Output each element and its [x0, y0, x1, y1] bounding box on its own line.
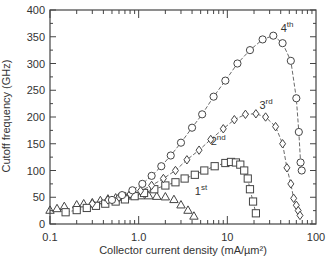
diamond-marker	[284, 164, 290, 172]
y-tick-label: 100	[27, 165, 45, 177]
circle-marker	[139, 180, 146, 187]
diamond-marker	[280, 140, 286, 148]
circle-marker	[158, 163, 165, 170]
diamond-marker	[273, 122, 279, 130]
x-tick-label: 1.0	[131, 231, 146, 243]
circle-marker	[259, 36, 266, 43]
circle-marker	[129, 187, 136, 194]
circle-marker	[295, 128, 302, 135]
square-marker	[191, 171, 198, 178]
y-tick-label: 250	[27, 84, 45, 96]
triangle-marker	[170, 195, 178, 202]
square-marker	[162, 182, 169, 189]
circle-marker	[188, 124, 195, 131]
y-tick-label: 150	[27, 138, 45, 150]
circle-marker	[270, 32, 277, 39]
cutoff-frequency-chart: 1st2nd3rd4th 0501001502002503003504000.1…	[0, 0, 331, 263]
y-tick-label: 400	[27, 4, 45, 16]
x-tick-label: 0.1	[42, 231, 57, 243]
circle-marker	[199, 111, 206, 118]
circle-marker	[177, 139, 184, 146]
plot-frame	[50, 10, 316, 224]
square-marker	[252, 210, 259, 217]
square-marker	[201, 167, 208, 174]
circle-marker	[234, 60, 241, 67]
circle-marker	[298, 167, 305, 174]
square-marker	[172, 179, 179, 186]
y-tick-label: 0	[39, 218, 45, 230]
y-tick-label: 350	[27, 31, 45, 43]
square-marker	[83, 204, 90, 211]
circle-marker	[246, 47, 253, 54]
series-label-3rd: 3rd	[259, 97, 272, 111]
circle-marker	[118, 192, 125, 199]
circle-marker	[148, 172, 155, 179]
square-marker	[244, 175, 251, 182]
square-marker	[73, 206, 80, 213]
x-tick-label: 10	[221, 231, 233, 243]
series-4th: 4th	[108, 20, 305, 203]
circle-marker	[293, 95, 300, 102]
y-tick-label: 200	[27, 111, 45, 123]
circle-marker	[287, 57, 294, 64]
x-tick-label: 100	[307, 231, 325, 243]
x-axis-label: Collector current density (mA/µm²)	[99, 244, 267, 256]
series-label-4th: 4th	[281, 20, 294, 34]
circle-marker	[222, 77, 229, 84]
y-tick-label: 50	[33, 191, 45, 203]
diamond-marker	[263, 113, 269, 121]
triangle-marker	[161, 193, 169, 200]
circle-marker	[108, 196, 115, 203]
square-marker	[249, 198, 256, 205]
square-marker	[181, 175, 188, 182]
square-marker	[241, 167, 248, 174]
circle-marker	[167, 152, 174, 159]
diamond-marker	[253, 110, 259, 118]
diamond-marker	[231, 115, 237, 123]
diamond-marker	[184, 156, 190, 164]
circle-marker	[279, 40, 286, 47]
diamond-marker	[196, 146, 202, 154]
plot-area: 1st2nd3rd4th	[46, 20, 306, 219]
diamond-marker	[172, 166, 178, 174]
circle-marker	[210, 93, 217, 100]
diamond-marker	[242, 110, 248, 118]
y-axis-label: Cutoff frequency (GHz)	[0, 60, 12, 173]
y-tick-label: 300	[27, 58, 45, 70]
circle-marker	[297, 159, 304, 166]
diamond-marker	[288, 180, 294, 188]
diamond-marker	[220, 125, 226, 133]
square-marker	[211, 163, 218, 170]
square-marker	[62, 209, 69, 216]
triangle-marker	[53, 204, 61, 211]
square-marker	[246, 186, 253, 193]
series-label-1st: 1st	[195, 183, 208, 197]
